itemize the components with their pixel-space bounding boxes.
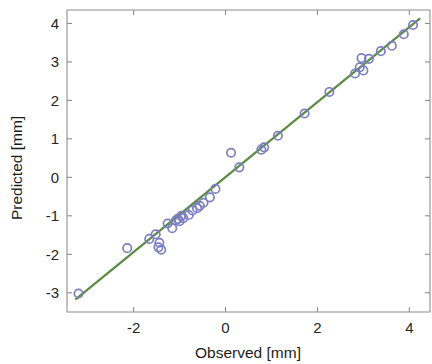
y-tick-label: 0 <box>51 169 59 186</box>
plot-svg: -2024-3-2-101234 Observed [mm] Predicted… <box>0 0 432 364</box>
scatter-plot-figure: -2024-3-2-101234 Observed [mm] Predicted… <box>0 0 432 364</box>
y-axis-title: Predicted [mm] <box>8 116 25 220</box>
y-tick-label: 3 <box>51 53 59 70</box>
x-tick-label: 0 <box>221 319 229 336</box>
x-tick-label: 4 <box>405 319 413 336</box>
y-tick-label: 4 <box>51 15 59 32</box>
x-tick-label: -2 <box>127 319 140 336</box>
y-tick-label: 2 <box>51 92 59 109</box>
x-axis-title: Observed [mm] <box>195 344 301 361</box>
x-tick-label: 2 <box>313 319 321 336</box>
y-tick-label: 1 <box>51 130 59 147</box>
y-tick-label: -1 <box>46 207 59 224</box>
y-tick-label: -3 <box>46 284 59 301</box>
y-tick-label: -2 <box>46 246 59 263</box>
